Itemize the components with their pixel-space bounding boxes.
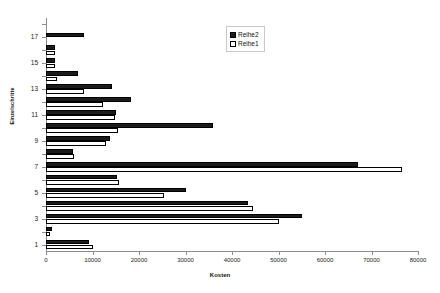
x-tick [139, 251, 140, 255]
bar-reihe1-cat-15 [46, 64, 55, 69]
x-tick-label: 10000 [73, 257, 113, 263]
bar-reihe2-cat-8 [46, 149, 73, 154]
y-tick-label: 15 [20, 59, 38, 66]
bar-reihe2-cat-11 [46, 110, 116, 115]
legend: Reihe2 Reihe1 [226, 26, 265, 52]
bar-reihe1-cat-6 [46, 180, 119, 185]
y-tick-label: 3 [20, 215, 38, 222]
legend-swatch-icon [230, 41, 236, 47]
x-tick-label: 80000 [398, 257, 438, 263]
y-tick [42, 37, 46, 38]
plot-area [46, 18, 418, 251]
x-tick [325, 251, 326, 255]
y-tick-label: 1 [20, 241, 38, 248]
bar-chart: Einzelschritte 0100002000030000400005000… [0, 0, 440, 293]
y-tick [42, 24, 46, 25]
bar-reihe2-cat-2 [46, 227, 52, 232]
y-tick-label: 7 [20, 163, 38, 170]
x-tick [279, 251, 280, 255]
x-tick-label: 0 [26, 257, 66, 263]
y-tick [42, 154, 46, 155]
bar-reihe2-cat-4 [46, 201, 248, 206]
bar-reihe2-cat-16 [46, 45, 55, 50]
y-tick-label: 17 [20, 33, 38, 40]
y-tick [42, 232, 46, 233]
bar-reihe1-cat-9 [46, 141, 106, 146]
x-tick-label: 70000 [352, 257, 392, 263]
y-tick [42, 50, 46, 51]
bar-reihe2-cat-3 [46, 214, 302, 219]
bar-reihe2-cat-15 [46, 58, 55, 63]
bar-reihe1-cat-13 [46, 89, 84, 94]
x-tick [232, 251, 233, 255]
x-tick [418, 251, 419, 255]
y-tick [42, 180, 46, 181]
x-axis-title: Kosten [0, 272, 440, 278]
y-tick [42, 102, 46, 103]
y-tick [42, 193, 46, 194]
y-tick [42, 245, 46, 246]
x-tick-label: 40000 [212, 257, 252, 263]
y-tick [42, 89, 46, 90]
bar-reihe2-cat-13 [46, 84, 112, 89]
bar-reihe1-cat-8 [46, 154, 74, 159]
bar-reihe1-cat-10 [46, 128, 118, 133]
y-tick [42, 141, 46, 142]
legend-item: Reihe1 [230, 39, 259, 48]
bar-reihe2-cat-1 [46, 240, 89, 245]
bar-reihe1-cat-14 [46, 77, 57, 82]
legend-item: Reihe2 [230, 30, 259, 39]
x-tick-label: 50000 [259, 257, 299, 263]
bar-reihe1-cat-3 [46, 219, 279, 224]
y-tick-label: 11 [20, 111, 38, 118]
bar-reihe1-cat-16 [46, 51, 55, 56]
legend-swatch-icon [230, 32, 236, 38]
bar-reihe1-cat-1 [46, 245, 93, 250]
y-tick-label: 13 [20, 85, 38, 92]
bar-reihe1-cat-4 [46, 206, 253, 211]
y-tick-label: 9 [20, 137, 38, 144]
y-tick [42, 63, 46, 64]
bar-reihe2-cat-14 [46, 71, 78, 76]
y-tick [42, 167, 46, 168]
bar-reihe2-cat-6 [46, 175, 117, 180]
y-axis-title: Einzelschritte [9, 66, 15, 146]
bar-reihe1-cat-7 [46, 167, 402, 172]
x-tick [186, 251, 187, 255]
bar-reihe2-cat-7 [46, 162, 358, 167]
y-tick [42, 115, 46, 116]
bar-reihe2-cat-10 [46, 123, 213, 128]
x-tick-label: 60000 [305, 257, 345, 263]
legend-item-label: Reihe1 [238, 40, 259, 47]
x-tick-label: 30000 [166, 257, 206, 263]
x-tick [372, 251, 373, 255]
bar-reihe2-cat-5 [46, 188, 186, 193]
bar-reihe1-cat-5 [46, 193, 164, 198]
y-tick [42, 76, 46, 77]
bar-reihe2-cat-17 [46, 33, 84, 38]
bar-reihe2-cat-12 [46, 97, 131, 102]
y-tick [42, 128, 46, 129]
bar-reihe1-cat-12 [46, 102, 103, 107]
y-tick-label: 5 [20, 189, 38, 196]
legend-item-label: Reihe2 [238, 31, 259, 38]
bar-reihe1-cat-2 [46, 232, 50, 237]
y-tick [42, 206, 46, 207]
bar-reihe1-cat-11 [46, 115, 115, 120]
x-tick [93, 251, 94, 255]
x-tick [46, 251, 47, 255]
bar-reihe2-cat-9 [46, 136, 110, 141]
x-tick-label: 20000 [119, 257, 159, 263]
y-tick [42, 219, 46, 220]
